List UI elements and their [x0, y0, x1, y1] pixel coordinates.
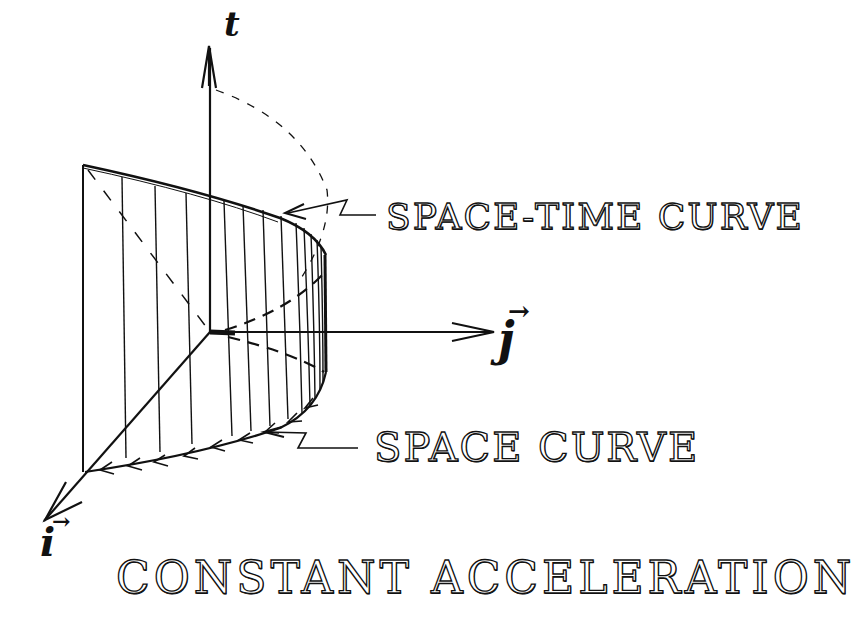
t-axis-arrowhead — [202, 46, 216, 88]
i-axis — [44, 332, 210, 521]
space-time-leader — [288, 200, 376, 215]
diagram-title: CONSTANT ACCELERATION — [116, 552, 855, 603]
space-curve-leader — [266, 432, 358, 448]
j-axis-label: j — [498, 312, 515, 366]
dashed-back-curve-upper — [225, 272, 325, 330]
surface-right-edge — [325, 255, 326, 372]
t-axis-label: t — [224, 4, 240, 44]
i-axis-label: i — [40, 518, 55, 565]
space-time-curve-label: SPACE-TIME CURVE — [386, 196, 804, 237]
i-axis-label-group: → i — [36, 508, 96, 578]
surface-hatching — [122, 177, 323, 458]
space-curve-label: SPACE CURVE — [374, 424, 699, 470]
space-curve-arrows — [100, 398, 318, 474]
j-axis-label-group: → j — [492, 302, 552, 372]
